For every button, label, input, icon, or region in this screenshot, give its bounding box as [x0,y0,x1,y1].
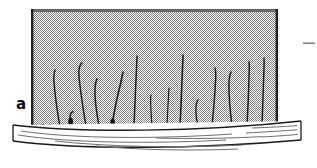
hair-follicle-diagram [0,0,317,168]
figure-panel-a: a [0,0,317,168]
scale-dash-marker [303,43,315,44]
panel-label-a: a [16,97,26,112]
dermis-field-fill [31,9,278,126]
dermis-left-edge [31,9,33,126]
dermis-top-edge [31,9,278,12]
dermis-field-group [31,9,278,126]
dermis-right-edge [276,9,278,126]
